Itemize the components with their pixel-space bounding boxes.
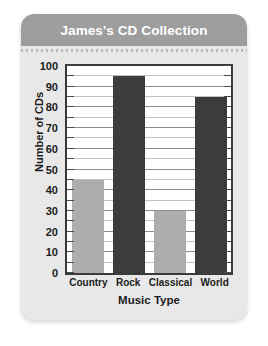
- y-axis-label: 0: [52, 267, 58, 279]
- axis-tick: [224, 96, 231, 97]
- axis-tick: [67, 86, 74, 87]
- y-axis-label: 60: [46, 143, 58, 155]
- axis-tick: [67, 169, 74, 170]
- axis-tick: [67, 220, 74, 221]
- axis-tick: [67, 106, 74, 107]
- axis-tick: [67, 127, 74, 128]
- y-axis-label: 40: [46, 184, 58, 196]
- y-axis-label: 80: [46, 101, 58, 113]
- y-axis-tick-labels: 0102030405060708090100: [21, 64, 62, 275]
- axis-tick: [224, 220, 231, 221]
- chart-card: James's CD Collection Number of CDs 0102…: [21, 14, 247, 320]
- axis-tick: [67, 262, 74, 263]
- axis-tick: [67, 241, 74, 242]
- bar: [113, 76, 145, 273]
- axis-tick: [67, 65, 74, 66]
- axis-tick: [67, 251, 74, 252]
- y-axis-label: 20: [46, 226, 58, 238]
- dotted-divider: [21, 49, 247, 52]
- x-axis-title: Music Type: [65, 294, 233, 306]
- axis-tick: [67, 117, 74, 118]
- axis-tick: [67, 137, 74, 138]
- axis-tick: [224, 231, 231, 232]
- bar: [195, 97, 227, 273]
- axis-tick: [224, 86, 231, 87]
- axis-tick: [67, 148, 74, 149]
- axis-tick: [224, 189, 231, 190]
- axis-tick: [67, 231, 74, 232]
- y-axis-label: 30: [46, 205, 58, 217]
- axis-tick: [224, 117, 231, 118]
- axis-tick: [224, 65, 231, 66]
- axis-tick: [67, 75, 74, 76]
- axis-tick: [67, 189, 74, 190]
- chart-title-bar: James's CD Collection: [21, 14, 247, 46]
- axis-tick: [224, 169, 231, 170]
- axis-tick: [224, 272, 231, 273]
- axis-tick: [224, 251, 231, 252]
- axis-tick: [224, 210, 231, 211]
- axis-tick: [224, 106, 231, 107]
- axis-tick: [67, 96, 74, 97]
- axis-tick: [224, 179, 231, 180]
- axis-tick: [224, 148, 231, 149]
- axis-tick: [224, 262, 231, 263]
- axis-tick: [224, 137, 231, 138]
- bar: [154, 211, 186, 273]
- x-axis-label: Classical: [149, 277, 192, 288]
- x-axis-label: World: [201, 277, 229, 288]
- axis-tick: [67, 200, 74, 201]
- bar: [72, 180, 104, 273]
- axis-tick: [224, 127, 231, 128]
- bar-series: [67, 66, 231, 273]
- y-axis-label: 50: [46, 164, 58, 176]
- axis-tick: [224, 75, 231, 76]
- y-axis-label: 70: [46, 122, 58, 134]
- y-axis-label: 90: [46, 81, 58, 93]
- plot-area: [65, 64, 233, 275]
- axis-tick: [224, 241, 231, 242]
- axis-tick: [67, 272, 74, 273]
- x-axis-tick-labels: CountryRockClassicalWorld: [65, 277, 233, 288]
- axis-tick: [67, 210, 74, 211]
- chart-title: James's CD Collection: [60, 23, 207, 38]
- y-axis-label: 100: [40, 60, 58, 72]
- y-axis-label: 10: [46, 246, 58, 258]
- x-axis-label: Country: [69, 277, 107, 288]
- axis-tick: [67, 158, 74, 159]
- axis-tick: [224, 200, 231, 201]
- x-axis-label: Rock: [116, 277, 140, 288]
- axis-tick: [224, 158, 231, 159]
- axis-tick: [67, 179, 74, 180]
